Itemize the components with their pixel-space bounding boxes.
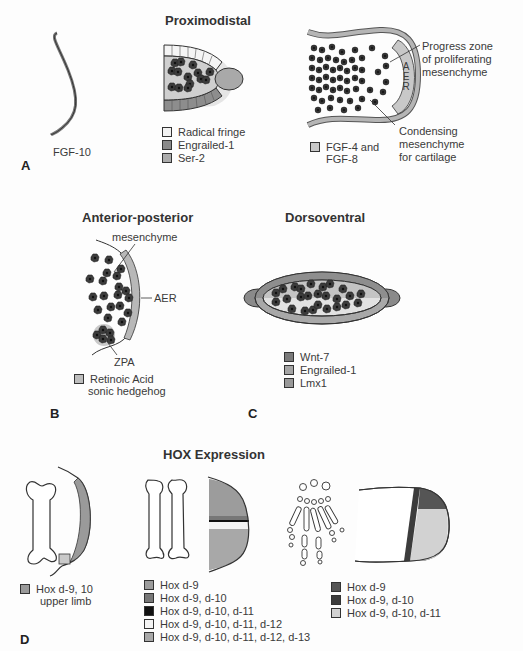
anterior-posterior-limb-bud (86, 240, 152, 355)
proximodistal-legend: Radical fringe Engrailed-1 Ser-2 (162, 125, 245, 164)
legend-swatch (144, 606, 154, 616)
legend-swatch (284, 378, 294, 388)
legend-item-ser-2: Ser-2 (162, 151, 245, 164)
legend-swatch (144, 593, 154, 603)
legend-item-hox: Hox d-9, d-10, d-11 (144, 604, 310, 617)
dorsoventral-legend: Wnt-7 Engrailed-1 Lmx1 (284, 350, 356, 389)
legend-swatch (331, 595, 341, 605)
legend-item-retinoic-acid: Retinoic Acid (74, 372, 166, 385)
legend-swatch (144, 580, 154, 590)
legend-swatch (144, 619, 154, 629)
legend-swatch (162, 140, 172, 150)
legend-item-hox: Hox d-9, d-10, d-11 (331, 606, 441, 619)
mesenchyme-callout: mesenchyme (112, 231, 177, 244)
legend-item-fgf4-fgf8: FGF-4 and (310, 140, 379, 153)
legend-item-wnt-7: Wnt-7 (284, 350, 356, 363)
legend-swatch (74, 374, 84, 384)
forearm-hox-legend: Hox d-9 Hox d-9, d-10 Hox d-9, d-10, d-1… (144, 578, 310, 643)
dorsoventral-title: Dorsoventral (285, 210, 365, 225)
legend-item-hox: Hox d-9, d-10 (144, 591, 310, 604)
upper-limb-bone-and-bud (26, 467, 90, 576)
hand-hox-legend: Hox d-9 Hox d-9, d-10 Hox d-9, d-10, d-1… (331, 580, 441, 619)
diagram-artwork (0, 0, 523, 651)
legend-swatch (331, 608, 341, 618)
anterior-posterior-title: Anterior-posterior (82, 210, 193, 225)
legend-item-lmx1: Lmx1 (284, 376, 356, 389)
panel-letter-c: C (248, 406, 257, 421)
condensing-mesenchyme-callout: Condensing mesenchyme for cartilage (399, 125, 464, 164)
dorsoventral-limb-bud (244, 272, 400, 324)
legend-swatch (331, 582, 341, 592)
legend-item-hox: Hox d-9, d-10, d-11, d-12 (144, 617, 310, 630)
legend-swatch (284, 352, 294, 362)
progress-zone-callout: Progress zone of proliferating mesenchym… (422, 40, 493, 79)
hand-bones-and-bud (288, 480, 450, 566)
legend-swatch (310, 142, 320, 152)
hox-expression-title: HOX Expression (163, 447, 265, 462)
upper-limb-legend: Hox d-9, 10 upper limb (20, 582, 93, 608)
legend-swatch (162, 153, 172, 163)
legend-item-engrailed-1: Engrailed-1 (162, 138, 245, 151)
panel-letter-d: D (20, 632, 29, 647)
aer-callout: AER (154, 292, 177, 305)
legend-swatch (20, 584, 30, 594)
proximodistal-limb-bud (164, 45, 243, 111)
aer-vertical-label: AER (402, 62, 410, 92)
legend-item-radical-fringe: Radical fringe (162, 125, 245, 138)
fgf-legend: FGF-4 and FGF-8 (310, 140, 379, 166)
legend-swatch (144, 632, 154, 642)
legend-item-hox: Hox d-9 (331, 580, 441, 593)
legend-item-hox: Hox d-9, d-10, d-11, d-12, d-13 (144, 630, 310, 643)
legend-item-hox-d9-10: Hox d-9, 10 (20, 582, 93, 595)
fgf10-label: FGF-10 (53, 146, 91, 159)
zpa-callout: ZPA (114, 356, 135, 369)
legend-swatch (284, 365, 294, 375)
panel-letter-a: A (21, 158, 30, 173)
fgf10-limb-outline (51, 33, 76, 135)
legend-item-hox: Hox d-9 (144, 578, 310, 591)
legend-item-hox: Hox d-9, d-10 (331, 593, 441, 606)
legend-swatch (162, 127, 172, 137)
panel-letter-b: B (50, 406, 59, 421)
legend-item-engrailed-1: Engrailed-1 (284, 363, 356, 376)
anterior-posterior-legend: Retinoic Acid sonic hedgehog (74, 372, 166, 398)
forearm-bones-and-bud (146, 477, 249, 572)
proximodistal-title: Proximodistal (165, 13, 251, 28)
